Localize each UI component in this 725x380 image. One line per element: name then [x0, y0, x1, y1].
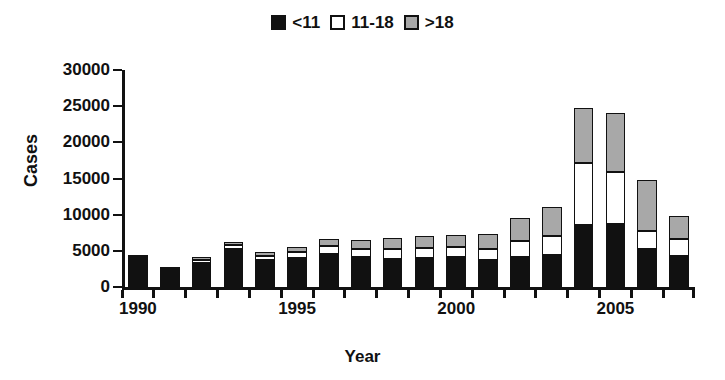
x-tick-end [692, 290, 695, 298]
bar-segment-2003-11-18 [542, 236, 562, 256]
x-tick-6 [312, 290, 315, 298]
x-tick-3 [216, 290, 219, 298]
bar-1992[interactable] [192, 257, 212, 287]
bar-segment-2001->18 [478, 234, 498, 249]
bar-2003[interactable] [542, 207, 562, 287]
y-tick-label-30000: 30000 [38, 61, 110, 78]
bar-segment-2000->18 [446, 235, 466, 247]
bar-segment-1997-11-18 [351, 249, 371, 257]
bar-segment-1995-<11 [287, 258, 307, 287]
y-tick-label-20000: 20000 [38, 133, 110, 150]
bar-1990[interactable] [128, 255, 148, 287]
x-tick-7 [343, 290, 346, 298]
x-tick-1 [152, 290, 155, 298]
bar-1995[interactable] [287, 247, 307, 287]
bar-segment-2003-<11 [542, 255, 562, 287]
y-tick-30000 [113, 69, 122, 71]
x-tick-9 [407, 290, 410, 298]
y-tick-20000 [113, 141, 122, 143]
bar-segment-2003->18 [542, 207, 562, 236]
bar-segment-2002-<11 [510, 257, 530, 287]
y-tick-15000 [113, 178, 122, 180]
y-tick-5000 [113, 250, 122, 252]
x-tick-11 [471, 290, 474, 298]
bar-1991[interactable] [160, 267, 180, 287]
y-tick-label-0: 0 [38, 278, 110, 295]
bar-segment-1999->18 [415, 236, 435, 248]
bar-2002[interactable] [510, 218, 530, 287]
legend-entry-11-18: 11-18 [330, 14, 394, 31]
bar-1994[interactable] [255, 252, 275, 287]
bar-segment-2004-<11 [574, 225, 594, 287]
x-tick-0 [121, 290, 124, 298]
x-tick-5 [280, 290, 283, 298]
bar-segment-2002->18 [510, 218, 530, 240]
bar-segment-2002-11-18 [510, 241, 530, 258]
bar-segment-2007-<11 [669, 256, 689, 287]
bar-1999[interactable] [415, 236, 435, 287]
x-tick-13 [534, 290, 537, 298]
bar-segment-2004->18 [574, 108, 594, 164]
bar-2007[interactable] [669, 216, 689, 287]
y-tick-label-5000: 5000 [38, 242, 110, 259]
bar-segment-1994-<11 [255, 260, 275, 287]
x-axis-title: Year [0, 347, 725, 367]
bar-segment-1990-<11 [128, 255, 148, 287]
stacked-bar-chart-figure: <11 11-18 >18 Cases Year 050001000015000… [0, 0, 725, 380]
bar-segment-2007->18 [669, 216, 689, 239]
bar-2001[interactable] [478, 234, 498, 287]
x-tick-label-1990: 1990 [108, 300, 168, 317]
bar-segment-2005-<11 [606, 224, 626, 287]
bar-segment-2001-<11 [478, 260, 498, 287]
bar-segment-1996->18 [319, 239, 339, 246]
bar-segment-2006-11-18 [637, 231, 657, 249]
gray-square-icon [404, 15, 419, 30]
black-square-icon [271, 15, 286, 30]
bar-2000[interactable] [446, 235, 466, 287]
bar-1993[interactable] [224, 242, 244, 287]
bar-segment-1997-<11 [351, 257, 371, 287]
bar-segment-1998->18 [383, 238, 403, 250]
bar-segment-2004-11-18 [574, 163, 594, 224]
bar-segment-2006->18 [637, 180, 657, 231]
legend-label-lt11: <11 [292, 14, 320, 31]
x-tick-8 [375, 290, 378, 298]
y-tick-label-15000: 15000 [38, 170, 110, 187]
bar-1998[interactable] [383, 238, 403, 287]
x-tick-12 [503, 290, 506, 298]
bar-2005[interactable] [606, 113, 626, 287]
bar-2006[interactable] [637, 180, 657, 287]
legend-entry-gt18: >18 [404, 14, 454, 31]
bar-group [122, 70, 695, 287]
bar-segment-1992-<11 [192, 263, 212, 287]
bar-segment-1996-11-18 [319, 246, 339, 254]
bar-segment-2001-11-18 [478, 249, 498, 260]
x-tick-label-1995: 1995 [267, 300, 327, 317]
y-axis-title: Cases [21, 116, 42, 206]
bar-segment-1996-<11 [319, 254, 339, 287]
y-tick-25000 [113, 105, 122, 107]
white-square-icon [330, 15, 345, 30]
y-tick-label-25000: 25000 [38, 97, 110, 114]
chart-legend: <11 11-18 >18 [0, 14, 725, 31]
bar-segment-1998-<11 [383, 259, 403, 287]
bar-segment-1998-11-18 [383, 249, 403, 258]
y-tick-10000 [113, 214, 122, 216]
x-tick-15 [598, 290, 601, 298]
x-tick-10 [439, 290, 442, 298]
bar-segment-1997->18 [351, 240, 371, 249]
bar-segment-2005->18 [606, 113, 626, 172]
bar-segment-2000-<11 [446, 257, 466, 287]
bar-segment-2007-11-18 [669, 239, 689, 256]
x-tick-2 [184, 290, 187, 298]
x-tick-4 [248, 290, 251, 298]
x-tick-label-2005: 2005 [585, 300, 645, 317]
bar-1996[interactable] [319, 239, 339, 287]
bar-1997[interactable] [351, 240, 371, 287]
bar-segment-2000-11-18 [446, 247, 466, 257]
x-tick-14 [566, 290, 569, 298]
bar-segment-1991-<11 [160, 267, 180, 287]
legend-label-gt18: >18 [425, 14, 454, 31]
bar-segment-1999-11-18 [415, 248, 435, 258]
bar-2004[interactable] [574, 108, 594, 287]
